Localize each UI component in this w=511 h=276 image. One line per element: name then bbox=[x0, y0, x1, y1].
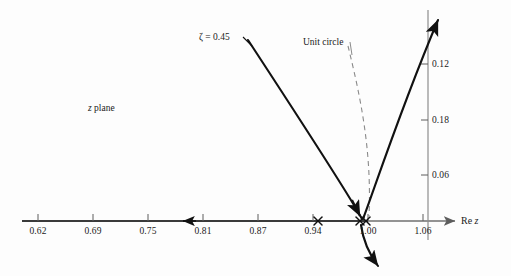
y-tick-label-1: 0.18 bbox=[432, 115, 449, 125]
x-tick-label-3: 0.81 bbox=[194, 226, 211, 236]
damping-label-leader bbox=[243, 37, 252, 46]
root-locus-left-branch bbox=[248, 40, 362, 219]
x-tick-label-5: 0.94 bbox=[304, 226, 321, 236]
x-tick-label-2: 0.75 bbox=[139, 226, 156, 236]
unit-circle-label-leader bbox=[350, 42, 352, 55]
plane-label: z plane bbox=[88, 103, 115, 113]
damping-ratio-label: ζ = 0.45 bbox=[199, 32, 230, 42]
plane-label-text: plane bbox=[92, 103, 115, 113]
x-axis-name-prefix: Re bbox=[461, 215, 475, 226]
figure-root-locus-z-plane: 0.62 0.69 0.75 0.81 0.87 0.94 1.00 1.06 … bbox=[0, 0, 511, 276]
left-branch-inbound-arrow bbox=[352, 200, 360, 216]
unit-circle-label: Unit circle bbox=[303, 37, 343, 47]
x-tick-label-7: 1.06 bbox=[414, 226, 431, 236]
x-tick-label-6: 1.00 bbox=[359, 226, 376, 236]
y-tick-label-2: 0.06 bbox=[432, 170, 449, 180]
x-axis-name: Re z bbox=[461, 215, 479, 226]
x-axis-name-symbol: z bbox=[475, 215, 479, 226]
x-tick-label-0: 0.62 bbox=[29, 226, 46, 236]
x-tick-label-4: 0.87 bbox=[249, 226, 266, 236]
x-tick-label-1: 0.69 bbox=[84, 226, 101, 236]
y-axis-ticks bbox=[421, 64, 428, 175]
y-tick-label-0: 0.12 bbox=[432, 59, 449, 69]
unit-circle-arc bbox=[348, 46, 369, 216]
x-axis bbox=[22, 214, 455, 221]
